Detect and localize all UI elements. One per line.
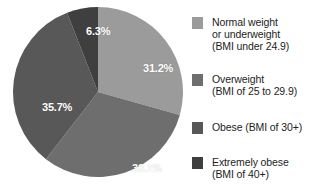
legend-item-normal-weight[interactable]: Normal weight or underweight (BMI under … xyxy=(192,16,289,53)
chart-legend: Normal weight or underweight (BMI under … xyxy=(192,12,319,191)
legend-item-extremely-obese[interactable]: Extremely obese (BMI of 40+) xyxy=(192,156,289,180)
legend-swatch-obese xyxy=(192,122,203,134)
legend-swatch-extremely-obese xyxy=(192,157,203,169)
legend-label-normal-weight: Normal weight or underweight (BMI under … xyxy=(212,16,289,53)
pie-slice-value-label: 6.3% xyxy=(86,25,110,37)
pie-slice-value-label: 33.1% xyxy=(132,162,162,174)
legend-item-overweight[interactable]: Overweight (BMI of 25 to 29.9) xyxy=(192,73,297,97)
legend-swatch-overweight xyxy=(192,74,203,86)
pie-slice-value-label: 35.7% xyxy=(42,101,72,113)
legend-label-extremely-obese: Extremely obese (BMI of 40+) xyxy=(212,156,289,180)
pie-slice-value-label: 31.2% xyxy=(143,62,173,74)
legend-label-overweight: Overweight (BMI of 25 to 29.9) xyxy=(212,73,297,97)
legend-item-obese[interactable]: Obese (BMI of 30+) xyxy=(192,121,302,134)
pie-chart-figure: 31.2%33.1%35.7%6.3% Normal weight or und… xyxy=(0,0,319,191)
legend-swatch-normal-weight xyxy=(192,17,203,29)
legend-label-obese: Obese (BMI of 30+) xyxy=(212,121,302,133)
